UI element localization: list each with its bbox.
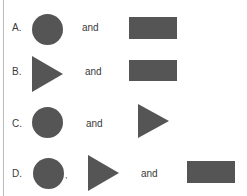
option-letter: A. [12, 22, 21, 33]
separator-comma: , [65, 170, 68, 180]
rectangle-shape-icon [129, 60, 177, 81]
circle-shape-icon [32, 14, 63, 45]
circle-shape-icon [33, 158, 64, 189]
triangle-shape-icon [88, 155, 119, 191]
triangle-shape-icon [32, 56, 63, 92]
connector-text: and [86, 118, 103, 129]
circle-shape-icon [32, 107, 63, 138]
left-border-line [3, 0, 4, 196]
connector-text: and [141, 168, 158, 179]
triangle-shape-icon [138, 104, 169, 138]
rectangle-shape-icon [187, 161, 235, 183]
connector-text: and [82, 22, 99, 33]
connector-text: and [85, 66, 102, 77]
option-letter: C. [12, 118, 22, 129]
rectangle-shape-icon [129, 17, 177, 39]
option-letter: B. [12, 66, 21, 77]
option-letter: D. [12, 168, 22, 179]
